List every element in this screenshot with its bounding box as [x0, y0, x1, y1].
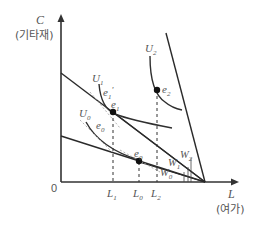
y-axis-symbol: C [36, 13, 45, 27]
label-u1: U1 [92, 72, 103, 87]
tick-l1: L1 [106, 187, 117, 202]
label-e2: e2 [162, 83, 171, 98]
tick-l2: L2 [150, 187, 161, 202]
drop-lines [113, 90, 157, 182]
label-e0-prime: e0 [96, 119, 105, 134]
x-axis-label: (여가) [216, 203, 245, 216]
origin-label: 0 [51, 182, 57, 194]
label-w0: W0 [160, 167, 173, 181]
point-e2 [154, 87, 160, 93]
x-axis-symbol: L [227, 187, 235, 201]
label-w2: W2 [180, 149, 193, 163]
label-u2: U2 [145, 42, 157, 57]
label-u0: U0 [79, 107, 91, 122]
axes [58, 14, 240, 186]
y-axis-arrow-icon [58, 14, 65, 22]
y-axis-label: (기타재) [15, 29, 54, 42]
labor-supply-diagram: C (기타재) L (여가) 0 U2 U1 U0 [0, 0, 261, 228]
indifference-curves [86, 56, 182, 160]
x-axis-arrow-icon [231, 179, 239, 186]
label-w1: W1 [168, 157, 180, 171]
tangent-hints [80, 92, 160, 172]
tick-l0: L0 [132, 187, 143, 202]
